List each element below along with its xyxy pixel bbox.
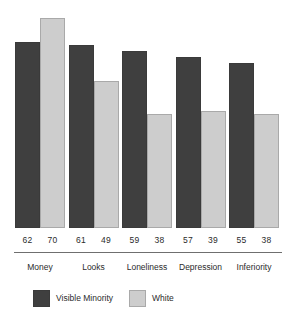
value-label: 59 — [122, 233, 147, 247]
value-label-group: 6149 — [69, 233, 119, 247]
category-label: Inferiority — [224, 259, 284, 275]
bar — [147, 114, 172, 228]
category-label-row: MoneyLooksLonelinessDepressionInferiorit… — [14, 259, 282, 275]
bar — [69, 45, 94, 228]
bar — [40, 18, 65, 228]
bar — [94, 81, 119, 228]
bar-group — [15, 18, 65, 228]
value-label-group: 5938 — [122, 233, 172, 247]
category-label: Depression — [171, 259, 231, 275]
bar-group — [176, 18, 226, 228]
category-label: Money — [10, 259, 70, 275]
category-label: Looks — [64, 259, 124, 275]
value-label: 62 — [15, 233, 40, 247]
legend-swatch — [129, 290, 146, 307]
x-axis-rule — [14, 252, 282, 253]
bar-group — [229, 18, 279, 228]
value-label: 61 — [69, 233, 94, 247]
bar — [229, 63, 254, 228]
chart-legend: Visible MinorityWhite — [33, 290, 174, 307]
value-label: 49 — [94, 233, 119, 247]
bar — [15, 42, 40, 228]
plot-area — [14, 18, 282, 228]
value-label: 39 — [201, 233, 226, 247]
legend-entry: Visible Minority — [33, 290, 113, 307]
bar — [122, 51, 147, 228]
value-label-group: 6270 — [15, 233, 65, 247]
grouped-bar-chart: 62706149593857395538 MoneyLooksLonelines… — [0, 0, 296, 325]
bar — [254, 114, 279, 228]
value-label: 38 — [254, 233, 279, 247]
legend-swatch — [33, 290, 50, 307]
value-label-row: 62706149593857395538 — [14, 233, 282, 247]
value-label: 70 — [40, 233, 65, 247]
value-label-group: 5538 — [229, 233, 279, 247]
value-label: 55 — [229, 233, 254, 247]
legend-label: White — [152, 290, 174, 307]
value-label: 57 — [176, 233, 201, 247]
bar — [176, 57, 201, 228]
value-label: 38 — [147, 233, 172, 247]
value-label-group: 5739 — [176, 233, 226, 247]
bar-group — [69, 18, 119, 228]
legend-entry: White — [129, 290, 174, 307]
bar — [201, 111, 226, 228]
bar-group — [122, 18, 172, 228]
category-label: Loneliness — [117, 259, 177, 275]
legend-label: Visible Minority — [56, 290, 113, 307]
